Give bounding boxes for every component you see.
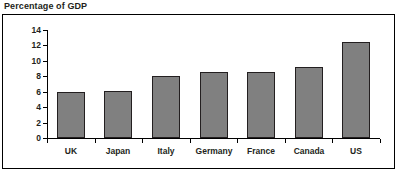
x-label-us: US <box>350 147 362 156</box>
y-tick-mark <box>43 45 47 46</box>
chart-title: Percentage of GDP <box>4 1 89 11</box>
x-axis-line <box>47 138 380 139</box>
y-tick-mark <box>43 123 47 124</box>
x-label-canada: Canada <box>294 147 325 156</box>
x-label-france: France <box>247 147 275 156</box>
y-tick-mark <box>43 92 47 93</box>
x-tick-mark <box>95 139 96 143</box>
y-tick-label: 2 <box>36 118 41 127</box>
bar-uk <box>57 92 85 138</box>
plot-area: 02468101214 UKJapanItalyGermanyFranceCan… <box>47 30 380 139</box>
y-tick-label: 6 <box>36 87 41 96</box>
x-tick-mark <box>190 139 191 143</box>
y-tick-label: 0 <box>36 134 41 143</box>
y-tick-label: 8 <box>36 72 41 81</box>
x-tick-mark <box>380 139 381 143</box>
x-tick-mark <box>47 139 48 143</box>
bar-canada <box>295 67 323 138</box>
x-tick-mark <box>285 139 286 143</box>
x-tick-mark <box>142 139 143 143</box>
bar-us <box>342 42 370 138</box>
bar-france <box>247 72 275 138</box>
y-axis-line <box>47 30 48 139</box>
x-label-uk: UK <box>65 147 77 156</box>
y-tick-mark <box>43 107 47 108</box>
y-tick-label: 14 <box>32 26 41 35</box>
bar-italy <box>152 76 180 138</box>
x-label-germany: Germany <box>196 147 233 156</box>
bar-japan <box>104 91 132 138</box>
x-tick-mark <box>332 139 333 143</box>
x-label-japan: Japan <box>106 147 131 156</box>
bar-germany <box>200 72 228 138</box>
y-tick-mark <box>43 76 47 77</box>
y-tick-mark <box>43 61 47 62</box>
y-tick-mark <box>43 30 47 31</box>
y-tick-label: 12 <box>32 41 41 50</box>
y-tick-label: 10 <box>32 57 41 66</box>
x-tick-mark <box>237 139 238 143</box>
y-tick-label: 4 <box>36 103 41 112</box>
x-label-italy: Italy <box>157 147 174 156</box>
chart-figure: Percentage of GDP 02468101214 UKJapanIta… <box>0 0 399 172</box>
